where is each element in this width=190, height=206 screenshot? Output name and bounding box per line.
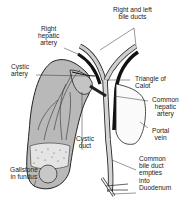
portal-vein	[116, 84, 146, 144]
label-right-hepatic-artery: Right hepatic artery	[38, 25, 59, 47]
label-cystic-duct: Cystic duct	[76, 135, 94, 149]
label-triangle-of-calot: Triangle of Calot	[135, 75, 166, 89]
label-right-left-bile-ducts: Right and left bile ducts	[113, 6, 152, 20]
label-common-bile-duct: Common bile duct empties into Duodenum	[139, 155, 171, 191]
label-portal-vein: Portal vein	[152, 127, 169, 141]
gallstone	[39, 165, 57, 183]
label-cystic-artery: Cystic artery	[11, 63, 29, 77]
label-gallstone-in-fundus: Gallstone in fundus	[10, 166, 38, 180]
biliary-anatomy-diagram: Right and left bile ducts Right hepatic …	[0, 0, 190, 206]
label-common-hepatic-artery: Common hepatic artery	[152, 96, 179, 118]
